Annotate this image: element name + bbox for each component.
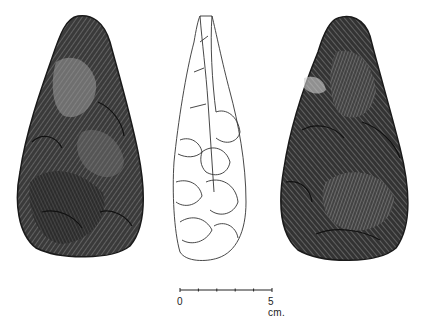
hand-axe-face-b-drawing: [276, 12, 420, 268]
hand-axe-face-b: [276, 12, 420, 268]
scale-start-label: 0: [177, 296, 183, 307]
hand-axe-profile: [166, 12, 250, 264]
scale-bar-line: [176, 284, 286, 294]
scale-end-label: 5 cm.: [268, 296, 286, 318]
scale-bar: 0 5 cm.: [176, 284, 286, 314]
hand-axe-face-a-drawing: [12, 12, 152, 262]
hand-axe-face-a: [12, 12, 152, 262]
hand-axe-profile-drawing: [166, 12, 250, 264]
